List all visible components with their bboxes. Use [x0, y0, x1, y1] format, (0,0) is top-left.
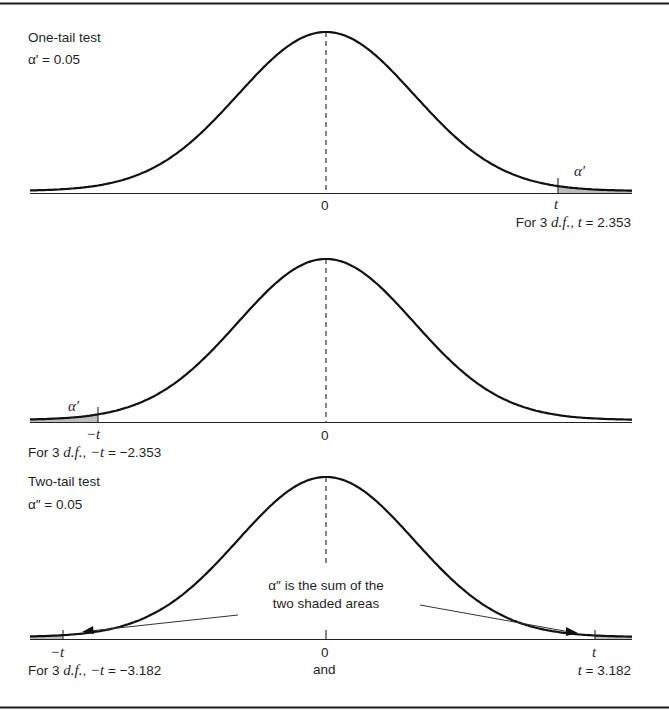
panel1-alpha-label: α′ = 0.05: [28, 52, 80, 68]
panel2-zero-label: 0: [321, 428, 329, 444]
t-curve: [30, 477, 632, 637]
annotation-line1: α″ is the sum of the: [226, 578, 426, 594]
annotation-arrow-right: [420, 605, 570, 632]
annotation-line2: two shaded areas: [226, 596, 426, 612]
panel3-caption-and: and: [313, 662, 336, 678]
panel3-neg-t-tick-label: −t: [50, 644, 64, 660]
panel3-zero-label: 0: [321, 645, 329, 661]
panel3-t-tick-label: t: [592, 644, 596, 660]
panel2-caption: For 3 d.f., −t = −2.353: [28, 444, 161, 461]
panel1-title: One-tail test: [28, 30, 101, 46]
t-curve: [30, 259, 632, 420]
panel3-alpha-label: α″ = 0.05: [28, 497, 82, 513]
panel2-neg-t-tick-label: −t: [86, 426, 100, 442]
panel3-caption-left: For 3 d.f., −t = −3.182: [28, 662, 161, 679]
panel-two-tail: [30, 477, 632, 640]
t-distribution-figure: [0, 0, 669, 720]
panel1-caption: For 3 d.f., t = 2.353: [516, 214, 631, 231]
panel-one-tail-right: [30, 32, 632, 194]
panel3-caption-right: t = 3.182: [578, 662, 631, 679]
panel3-title: Two-tail test: [28, 474, 100, 490]
panel1-zero-label: 0: [321, 198, 329, 214]
annotation-arrow-left: [90, 615, 238, 631]
panel1-tail-alpha-symbol: α′: [574, 163, 585, 179]
t-curve: [30, 32, 632, 191]
panel2-tail-alpha-symbol: α′: [68, 398, 79, 414]
panel-one-tail-left: [30, 259, 632, 423]
panel1-t-tick-label: t: [554, 196, 558, 212]
